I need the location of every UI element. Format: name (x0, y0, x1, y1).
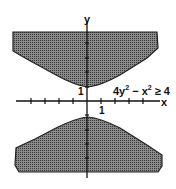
eq-base: 4y (113, 85, 125, 97)
eq-mid: − x (129, 85, 148, 97)
x-axis-label: x (161, 97, 167, 108)
y-axis-label: y (84, 14, 90, 25)
x-tick-label: 1 (99, 106, 105, 116)
upper-shaded-region (13, 32, 158, 87)
y-tick-label: 1 (78, 87, 84, 97)
inequality-label: 4y2 − x2 ≥ 4 (113, 84, 170, 97)
eq-end: ≥ 4 (152, 85, 170, 97)
